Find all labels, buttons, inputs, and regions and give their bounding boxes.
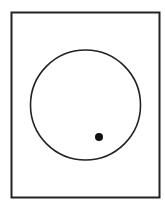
circle-outline [31,50,141,160]
diagram-canvas [0,0,165,203]
frame-rectangle [12,13,160,198]
dot-marker [95,133,103,141]
